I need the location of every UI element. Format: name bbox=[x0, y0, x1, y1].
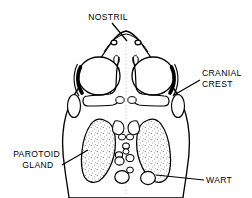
orbit-right bbox=[132, 57, 174, 95]
wart-midline-upper-b bbox=[123, 149, 129, 154]
label-parotoid-gland-line-0: PAROTOID bbox=[13, 149, 60, 159]
figure-root: NOSTRIL CRANIAL CREST PAROTOID GLAND WAR… bbox=[0, 0, 252, 198]
label-cranial-crest-line-1: CREST bbox=[202, 79, 233, 89]
label-wart: WART bbox=[206, 175, 233, 185]
label-parotoid-gland-line-1: GLAND bbox=[22, 160, 53, 170]
orbit-left bbox=[78, 57, 120, 95]
gland-lobule-small-left bbox=[118, 134, 125, 140]
label-nostril: NOSTRIL bbox=[88, 12, 128, 22]
tympanum-right bbox=[172, 95, 185, 118]
wart-left-upper-b bbox=[115, 157, 124, 165]
nostril-left bbox=[111, 40, 117, 45]
postorbital-nodule-left bbox=[116, 97, 124, 104]
postorbital-nodule-right bbox=[128, 97, 136, 104]
gland-lobule-right bbox=[128, 121, 140, 135]
gland-lobule-left bbox=[112, 121, 124, 135]
wart-midline-lower bbox=[126, 154, 134, 161]
nostril-right bbox=[135, 40, 141, 45]
label-cranial-crest-line-0: CRANIAL bbox=[202, 68, 242, 78]
tympanum-left bbox=[68, 95, 81, 118]
gland-lobule-small-right bbox=[126, 134, 133, 140]
toad-head-diagram: NOSTRIL CRANIAL CREST PAROTOID GLAND WAR… bbox=[0, 0, 252, 198]
wart-right-lower-labeled bbox=[141, 171, 156, 184]
label-parotoid-gland: PAROTOID GLAND bbox=[13, 149, 63, 170]
wart-midline-bottom bbox=[127, 167, 134, 173]
label-wart-line-0: WART bbox=[206, 175, 233, 185]
label-nostril-line-0: NOSTRIL bbox=[88, 12, 128, 22]
wart-midline-upper bbox=[123, 143, 130, 149]
label-cranial-crest: CRANIAL CREST bbox=[202, 68, 244, 89]
